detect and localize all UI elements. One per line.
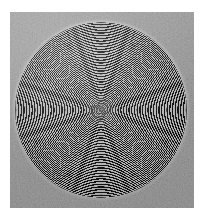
page-margin-top xyxy=(0,0,203,12)
disc-container xyxy=(10,12,194,208)
page-margin-left xyxy=(0,0,10,218)
page-margin-right xyxy=(194,0,203,218)
page-margin-bottom xyxy=(0,208,203,218)
figure-canvas xyxy=(0,0,203,218)
concentric-ring-disc xyxy=(15,22,187,198)
scanned-plate xyxy=(10,12,194,208)
ring-pattern xyxy=(15,22,187,198)
